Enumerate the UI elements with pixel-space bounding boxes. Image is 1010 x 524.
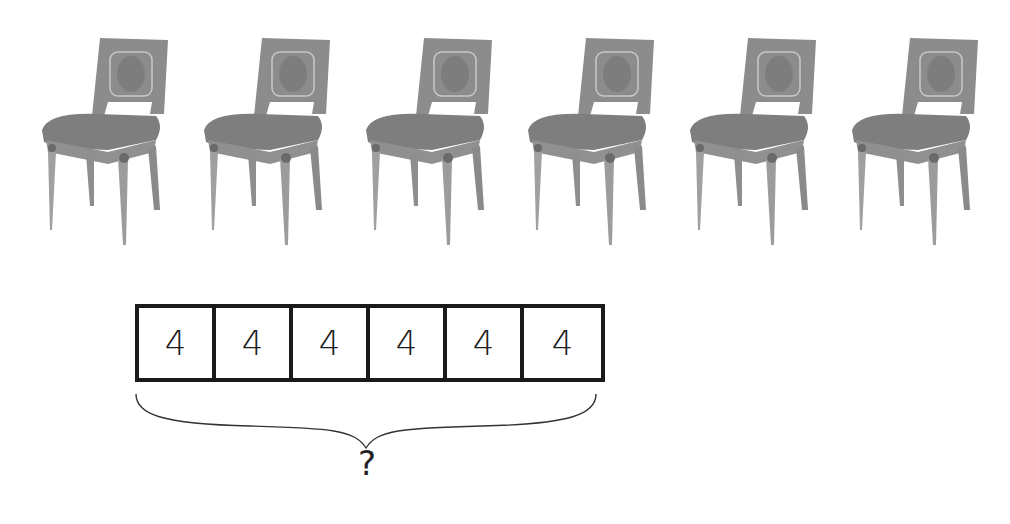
total-unknown-label: ? (352, 443, 382, 483)
chair-icon (686, 30, 816, 250)
chair-icon (686, 30, 816, 250)
chair-icon (362, 30, 492, 250)
chairs-row (0, 0, 1010, 260)
tape-cell: 4 (139, 308, 216, 378)
tape-diagram: 4 4 4 4 4 4 (135, 304, 605, 382)
tape-cell: 4 (370, 308, 447, 378)
tape-cell: 4 (293, 308, 370, 378)
tape-cell: 4 (216, 308, 293, 378)
chair-icon (524, 30, 654, 250)
tape-cell: 4 (524, 308, 601, 378)
chair-icon (848, 30, 978, 250)
tape-cell: 4 (447, 308, 524, 378)
chair-icon (38, 30, 168, 250)
chair-icon (848, 30, 978, 250)
chair-icon (200, 30, 330, 250)
chair-icon (200, 30, 330, 250)
chair-icon (524, 30, 654, 250)
chair-icon (38, 30, 168, 250)
chair-icon (362, 30, 492, 250)
